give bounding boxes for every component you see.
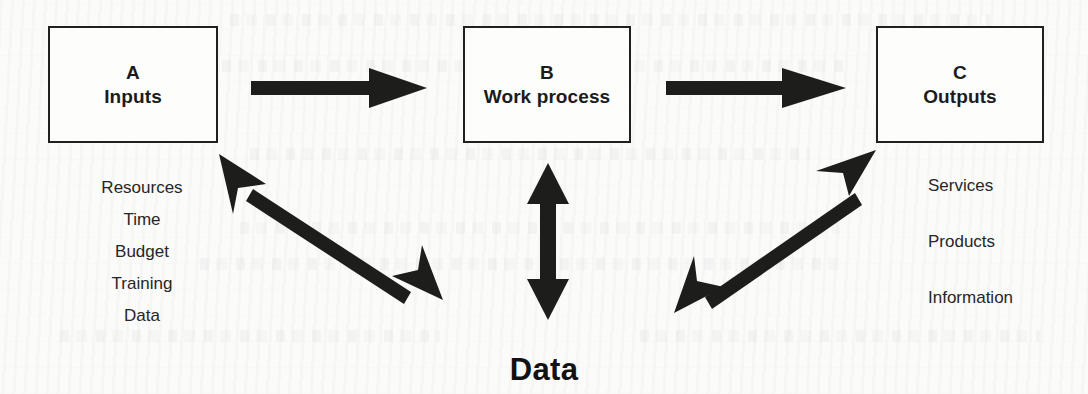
arrow-b-to-data-icon bbox=[527, 163, 569, 320]
arrow-data-to-c-icon bbox=[674, 150, 876, 313]
diagram-canvas: A Inputs B Work process C Outputs Resour… bbox=[0, 0, 1088, 394]
arrow-a-to-data-icon bbox=[219, 154, 443, 304]
arrow-a-to-b-icon bbox=[251, 68, 427, 108]
arrow-layer bbox=[0, 0, 1088, 394]
arrow-b-to-c-icon bbox=[666, 68, 846, 108]
